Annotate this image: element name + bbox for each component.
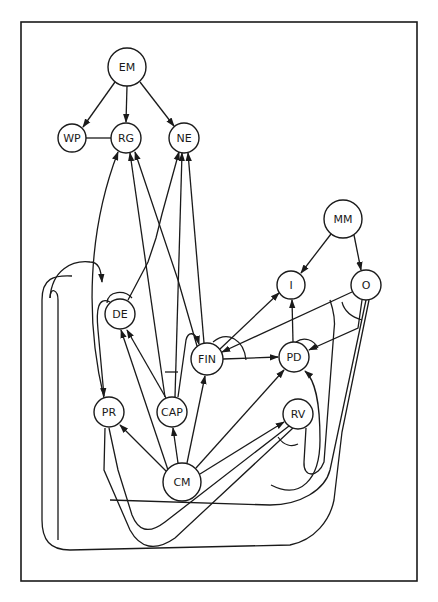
loop-o-mid (110, 300, 366, 505)
edge-em-wp (83, 82, 115, 127)
node-label: EM (119, 61, 135, 74)
node-o: O (351, 270, 381, 300)
node-mm: MM (324, 200, 362, 238)
node-label: NE (176, 132, 191, 145)
node-label: MM (334, 213, 353, 226)
node-fin: FIN (191, 343, 223, 375)
node-label: I (289, 279, 292, 292)
edge-cm-fin (187, 376, 205, 463)
node-rg: RG (111, 123, 141, 153)
edge-fin-ne (188, 153, 204, 343)
node-pd: PD (279, 342, 309, 372)
edge-em-rg (126, 86, 127, 122)
edge-rv-pd (271, 371, 320, 490)
node-rv: RV (283, 399, 313, 429)
edge-pr-rg (92, 152, 118, 398)
node-i: I (277, 271, 305, 299)
node-label: RV (291, 408, 306, 421)
edge-cm-pd (196, 370, 284, 468)
edge-mm-o (354, 235, 361, 270)
node-cap: CAP (157, 397, 187, 427)
node-label: PD (286, 351, 301, 364)
node-label: FIN (198, 353, 216, 366)
node-wp: WP (58, 124, 86, 152)
edge-mm-i (301, 234, 331, 273)
edge-cm-pr (120, 425, 166, 471)
edge-layer (42, 82, 369, 550)
loop-left-arrow (50, 262, 102, 298)
loop-left-inner (50, 291, 58, 540)
edge-pd-i (292, 300, 293, 342)
node-label: PR (102, 406, 117, 419)
node-de: DE (105, 299, 135, 329)
diagram-canvas: EMWPRGNEMMIODEFINPDPRCAPRVCM (0, 0, 438, 602)
node-em: EM (108, 48, 146, 86)
node-ne: NE (169, 123, 199, 153)
edge-cm-cap (173, 428, 178, 463)
edge-em-ne (140, 82, 174, 126)
node-cm: CM (163, 463, 201, 501)
node-pr: PR (94, 397, 124, 427)
node-label: O (362, 279, 371, 292)
node-label: CAP (161, 406, 183, 419)
node-label: RG (118, 132, 134, 145)
and-arc-rv (278, 437, 298, 446)
edge-fin-pd (223, 357, 278, 359)
edge-fin-i (220, 293, 279, 349)
node-label: CM (173, 476, 190, 489)
node-layer: EMWPRGNEMMIODEFINPDPRCAPRVCM (58, 48, 381, 501)
node-label: WP (63, 132, 81, 145)
node-label: DE (112, 308, 127, 321)
edge-de-ne (128, 152, 179, 300)
